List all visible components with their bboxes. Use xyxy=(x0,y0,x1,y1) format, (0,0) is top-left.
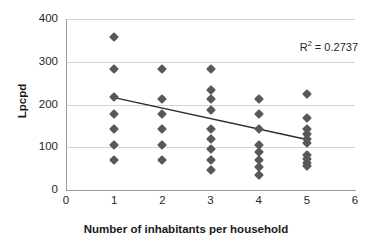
r-squared-value: = 0.2737 xyxy=(312,41,358,53)
x-tick-label: 1 xyxy=(102,194,126,206)
x-tick-label: 0 xyxy=(54,194,78,206)
r-squared-annotation: R2 = 0.2737 xyxy=(300,39,358,53)
y-tick-label: 100 xyxy=(2,141,58,152)
x-tick-label: 4 xyxy=(247,194,271,206)
x-tick-label: 6 xyxy=(343,194,367,206)
x-tick-label: 2 xyxy=(150,194,174,206)
y-axis-line xyxy=(66,19,67,191)
scatter-chart: Lpcpd Number of inhabitants per househol… xyxy=(0,0,372,247)
x-axis-title: Number of inhabitants per household xyxy=(0,223,372,235)
y-tick-label: 400 xyxy=(2,13,58,24)
x-axis-line xyxy=(66,190,356,191)
x-tick-label: 5 xyxy=(295,194,319,206)
gridline xyxy=(66,19,355,20)
y-tick-label: 200 xyxy=(2,99,58,110)
x-tick-label: 3 xyxy=(199,194,223,206)
y-tick-label: 0 xyxy=(2,184,58,195)
y-tick-label: 300 xyxy=(2,56,58,67)
gridline xyxy=(66,62,355,63)
r-squared-symbol: R xyxy=(300,41,308,53)
